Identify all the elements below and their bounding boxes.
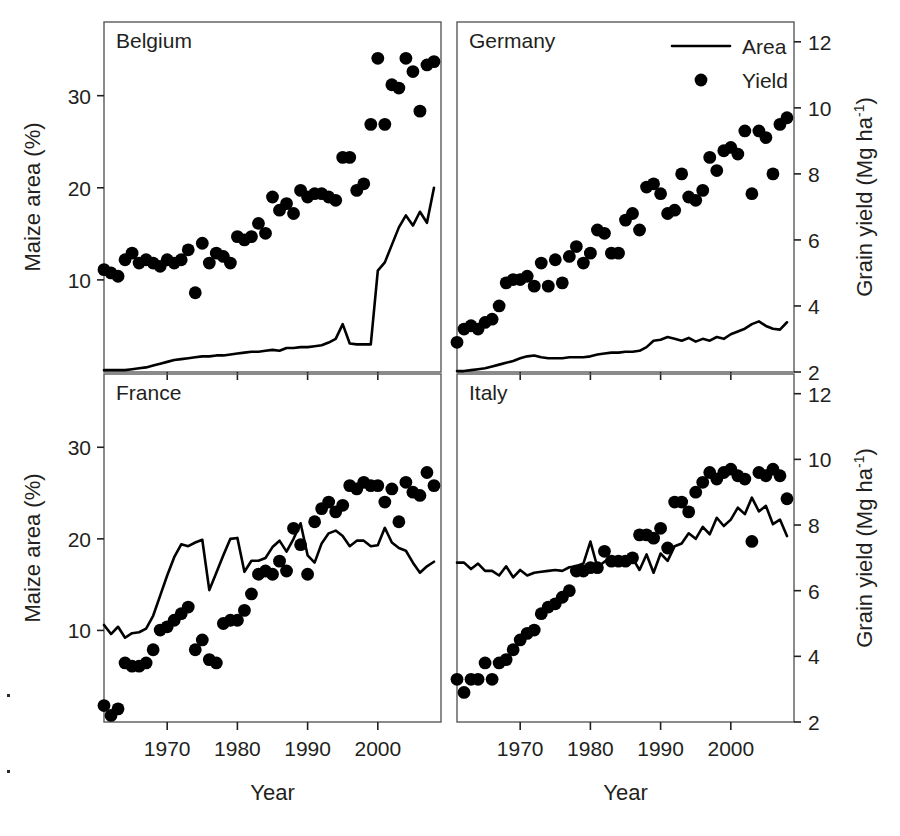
yield-point xyxy=(210,657,223,670)
panel-belgium: 102030Belgium xyxy=(68,22,441,380)
yield-point xyxy=(294,538,307,551)
yield-point xyxy=(301,568,314,581)
yield-point xyxy=(364,118,377,131)
area-line-france xyxy=(104,523,434,637)
yield-point xyxy=(140,657,153,670)
yield-point xyxy=(196,237,209,250)
axis-titles: Maize area (%)Maize area (%)Grain yield … xyxy=(20,97,877,805)
yield-point xyxy=(570,240,583,253)
yield-point xyxy=(535,257,548,270)
yield-point xyxy=(682,505,695,518)
yield-point xyxy=(626,207,639,220)
yield-point xyxy=(703,151,716,164)
y2-tick-label: 10 xyxy=(808,97,831,120)
right-axis-title-close: ) xyxy=(852,448,877,455)
y-tick-label: 10 xyxy=(68,619,91,642)
yield-point xyxy=(407,65,420,78)
y-tick-label: 20 xyxy=(68,177,91,200)
scan-speck xyxy=(7,694,10,697)
yield-point xyxy=(308,515,321,528)
y2-tick-label: 12 xyxy=(808,31,831,54)
y2-tick-label: 6 xyxy=(808,580,820,603)
yield-point xyxy=(738,473,751,486)
yield-point xyxy=(182,601,195,614)
left-axis-title: Maize area (%) xyxy=(20,473,45,622)
yield-point xyxy=(385,483,398,496)
legend-area-label: Area xyxy=(742,35,787,58)
yield-point xyxy=(245,230,258,243)
right-axis-title-superscript: -1 xyxy=(851,455,867,468)
y2-tick-label: 6 xyxy=(808,229,820,252)
yield-point xyxy=(371,479,384,492)
yield-point xyxy=(542,280,555,293)
right-axis-title-superscript: -1 xyxy=(851,104,867,117)
yield-point xyxy=(486,313,499,326)
yield-point xyxy=(287,207,300,220)
x-tick-label: 2000 xyxy=(354,737,401,760)
yield-point xyxy=(378,118,391,131)
yield-point xyxy=(584,247,597,260)
yield-point xyxy=(400,52,413,65)
yield-point xyxy=(428,479,441,492)
yield-point xyxy=(556,276,569,289)
right-axis-title-main: Grain yield (Mg ha xyxy=(852,116,877,297)
yield-point xyxy=(528,624,541,637)
yield-point xyxy=(472,673,485,686)
yield-point xyxy=(710,164,723,177)
yield-point xyxy=(563,584,576,597)
yield-point xyxy=(626,551,639,564)
right-axis-title-close: ) xyxy=(852,97,877,104)
maize-area-yield-figure: 102030Belgium24681012Germany102030197019… xyxy=(0,0,900,836)
yield-point xyxy=(451,673,464,686)
yield-point xyxy=(238,604,251,617)
yield-point xyxy=(259,227,272,240)
yield-point xyxy=(196,634,209,647)
area-line-belgium xyxy=(104,188,434,370)
yield-point xyxy=(612,247,625,260)
yield-point xyxy=(633,224,646,237)
yield-point xyxy=(245,588,258,601)
yield-point xyxy=(280,565,293,578)
x-tick-label: 1990 xyxy=(637,737,684,760)
x-tick-label: 1980 xyxy=(567,737,614,760)
yield-point xyxy=(486,673,499,686)
yield-point xyxy=(738,125,751,138)
panel-italy: 246810121970198019902000Italy xyxy=(451,374,832,760)
x-axis-title-right: Year xyxy=(603,780,647,805)
yield-point xyxy=(392,515,405,528)
yield-point xyxy=(654,187,667,200)
yield-point xyxy=(528,280,541,293)
yield-point xyxy=(414,105,427,118)
y-tick-label: 20 xyxy=(68,528,91,551)
yield-point xyxy=(598,227,611,240)
yield-point xyxy=(451,336,464,349)
yield-point xyxy=(745,187,758,200)
area-line-germany xyxy=(457,321,787,371)
yield-point xyxy=(493,300,506,313)
x-tick-label: 1990 xyxy=(284,737,331,760)
yield-point xyxy=(287,522,300,535)
panel-title-germany: Germany xyxy=(469,29,556,52)
yield-point xyxy=(781,492,794,505)
panel-title-italy: Italy xyxy=(469,381,508,404)
yield-point xyxy=(392,82,405,95)
scan-speck xyxy=(7,770,10,773)
yield-point xyxy=(266,191,279,204)
yield-point xyxy=(182,243,195,256)
yield-point xyxy=(774,469,787,482)
yield-point xyxy=(147,643,160,656)
y-tick-label: 30 xyxy=(68,85,91,108)
right-axis-title-main: Grain yield (Mg ha xyxy=(852,467,877,648)
yield-point xyxy=(428,55,441,68)
yield-point xyxy=(479,657,492,670)
yield-point xyxy=(266,568,279,581)
y2-tick-label: 4 xyxy=(808,645,820,668)
four-panel-chart: 102030Belgium24681012Germany102030197019… xyxy=(0,0,900,836)
yield-point xyxy=(696,184,709,197)
yield-point xyxy=(760,131,773,144)
yield-point xyxy=(112,270,125,283)
yield-point xyxy=(654,522,667,535)
right-axis-title: Grain yield (Mg ha-1) xyxy=(851,97,877,297)
yield-point xyxy=(224,257,237,270)
yield-point xyxy=(371,52,384,65)
